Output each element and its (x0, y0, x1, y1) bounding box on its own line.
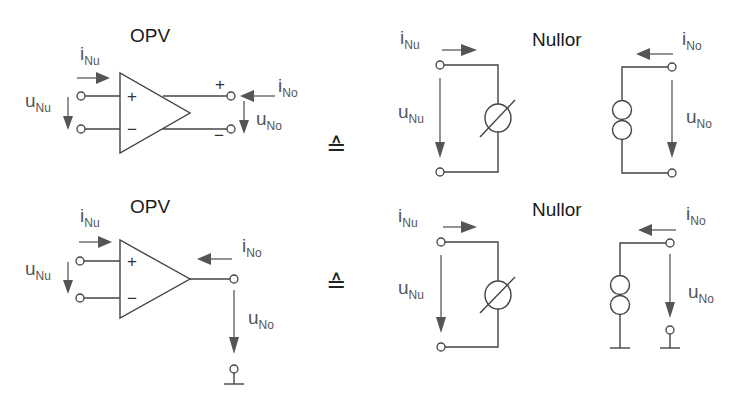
norator-top-wire (620, 243, 666, 276)
ground-terminal-icon (224, 365, 244, 384)
input-current-label: iNu (80, 43, 100, 68)
input-current-arrow-icon (77, 72, 110, 84)
top-opv-circuit: OPV + − + − iNu uNu iNo (25, 25, 298, 153)
nullor-input-voltage-label: uNu (398, 277, 424, 302)
output-voltage-arrow-icon (229, 290, 239, 354)
bottom-nullor-title: Nullor (532, 199, 582, 220)
nullor-input-current-arrow-icon (443, 221, 477, 233)
plus-sign: + (127, 252, 137, 271)
top-opv-title: OPV (130, 25, 170, 46)
input-terminal-plus (77, 92, 85, 100)
bottom-nullor-circuit: Nullor iNu uNu (398, 199, 714, 351)
nullor-input-terminal-bottom (437, 343, 445, 351)
nullor-output-current-arrow-icon (636, 48, 673, 60)
top-nullor-title: Nullor (532, 29, 582, 50)
bottom-opv-title: OPV (130, 196, 170, 217)
input-voltage-arrow-icon (63, 262, 73, 294)
nullator-top-wire (444, 65, 498, 105)
nullator-icon (480, 277, 515, 313)
norator-icon (613, 101, 632, 140)
nullor-input-terminal-top (437, 238, 445, 246)
nullor-input-voltage-arrow-icon (435, 78, 445, 158)
nullor-output-terminal-top (668, 63, 676, 71)
nullator-bottom-wire (444, 308, 498, 347)
nullor-input-voltage-label: uNu (398, 101, 424, 126)
input-terminal-minus (77, 125, 85, 133)
nullor-output-terminal-top (666, 239, 674, 247)
norator-bottom-wire (622, 139, 668, 173)
opamp-triangle-icon (120, 73, 190, 153)
input-current-label: iNu (80, 205, 100, 230)
output-current-arrow-icon (240, 90, 275, 102)
input-voltage-label: uNu (25, 258, 51, 283)
nullor-input-terminal-bottom (436, 168, 444, 176)
output-terminal-minus (227, 125, 235, 133)
equivalence-symbol-top: ≙ (326, 133, 346, 161)
output-ground-terminal-icon (660, 326, 680, 348)
output-plus-sign: + (215, 75, 225, 94)
output-current-label: iNo (242, 235, 262, 260)
top-nullor-circuit: Nullor iNu uNu iNo (398, 27, 712, 177)
plus-sign: + (127, 87, 137, 106)
output-terminal (230, 275, 238, 283)
nullor-input-current-label: iNu (400, 27, 420, 52)
input-voltage-label: uNu (25, 90, 51, 115)
input-terminal-plus (76, 257, 84, 265)
nullor-input-current-label: iNu (398, 205, 418, 230)
norator-icon (611, 276, 630, 315)
output-minus-sign: − (214, 126, 224, 145)
input-current-arrow-icon (79, 236, 112, 248)
output-voltage-label: uNo (248, 307, 274, 332)
nullator-icon (480, 100, 515, 137)
input-terminal-minus (76, 294, 84, 302)
output-current-label: iNo (278, 75, 298, 100)
output-current-arrow-icon (197, 253, 232, 265)
equivalence-symbol-bottom: ≙ (326, 270, 346, 298)
nullor-output-voltage-arrow-icon (665, 254, 675, 318)
input-voltage-arrow-icon (63, 97, 73, 130)
nullor-output-terminal-bottom (668, 169, 676, 177)
nullor-output-current-label: iNo (682, 28, 702, 53)
output-voltage-label: uNo (256, 108, 282, 133)
nullator-bottom-wire (444, 131, 498, 172)
minus-sign: − (127, 289, 137, 308)
output-terminal-plus (227, 92, 235, 100)
nullor-input-current-arrow-icon (442, 44, 477, 56)
output-voltage-arrow-icon (239, 101, 249, 134)
nullor-output-voltage-label: uNo (688, 281, 714, 306)
nullor-output-voltage-arrow-icon (667, 80, 677, 158)
nullor-output-current-label: iNo (686, 203, 706, 228)
nullor-input-voltage-arrow-icon (436, 255, 446, 333)
minus-sign: − (127, 120, 137, 139)
bottom-opv-circuit: OPV + − iNu uNu iNo uNo (25, 196, 274, 384)
nullor-input-terminal-top (436, 61, 444, 69)
nullor-output-voltage-label: uNo (686, 106, 712, 131)
opamp-nullor-equivalence-diagram: OPV + − + − iNu uNu iNo (0, 0, 745, 408)
nullor-output-current-arrow-icon (638, 224, 676, 236)
norator-top-wire (622, 67, 668, 101)
nullator-top-wire (444, 242, 498, 282)
